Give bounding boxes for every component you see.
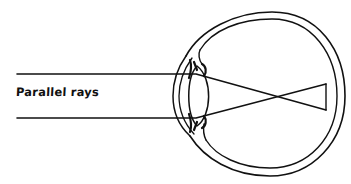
parallel-rays-label: Parallel rays <box>16 85 100 99</box>
cornea-outer <box>173 56 190 136</box>
ciliary-wall-upper <box>199 50 202 64</box>
